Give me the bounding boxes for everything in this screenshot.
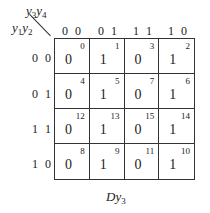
kmap-cell: 015 — [125, 109, 160, 144]
cell-value: 0 — [135, 87, 142, 103]
cell-minterm-index: 8 — [80, 146, 85, 156]
kmap-cell: 00 — [55, 39, 90, 74]
row-label-00: 0 0 — [32, 51, 53, 66]
cell-value: 0 — [65, 52, 72, 68]
column-label-11: 1 1 — [133, 24, 154, 39]
cell-value: 1 — [169, 87, 176, 103]
cell-minterm-index: 7 — [150, 76, 155, 86]
kmap-cell: 110 — [159, 144, 194, 179]
row-label-01: 0 1 — [32, 87, 53, 102]
kmap-cell: 012 — [55, 109, 90, 144]
cell-minterm-index: 1 — [115, 41, 120, 51]
cell-value: 1 — [169, 122, 176, 138]
cell-value: 1 — [100, 157, 107, 173]
cell-value: 0 — [135, 52, 142, 68]
cell-value: 1 — [100, 52, 107, 68]
kmap-cell: 03 — [125, 39, 160, 74]
column-label-10: 1 0 — [168, 24, 189, 39]
cell-minterm-index: 2 — [186, 41, 191, 51]
cell-minterm-index: 10 — [181, 146, 190, 156]
kmap-cell: 19 — [90, 144, 125, 179]
cell-value: 1 — [169, 52, 176, 68]
cell-value: 0 — [135, 122, 142, 138]
cell-minterm-index: 14 — [181, 111, 190, 121]
kmap-cell: 113 — [90, 109, 125, 144]
cell-value: 1 — [100, 122, 107, 138]
cell-value: 0 — [135, 157, 142, 173]
cell-value: 0 — [65, 157, 72, 173]
kmap-cell: 11 — [90, 39, 125, 74]
cell-minterm-index: 12 — [76, 111, 85, 121]
kmap-cell: 16 — [159, 74, 194, 109]
kmap-cell: 12 — [159, 39, 194, 74]
kmap-cell: 07 — [125, 74, 160, 109]
map-caption: Dy3 — [106, 189, 126, 206]
cell-value: 0 — [65, 87, 72, 103]
cell-minterm-index: 11 — [146, 146, 155, 156]
row-label-11: 1 1 — [32, 122, 53, 137]
cell-minterm-index: 6 — [186, 76, 191, 86]
column-label-01: 0 1 — [98, 24, 119, 39]
kmap-cell: 114 — [159, 109, 194, 144]
cell-minterm-index: 3 — [150, 41, 155, 51]
cell-minterm-index: 9 — [115, 146, 120, 156]
cell-minterm-index: 4 — [80, 76, 85, 86]
cell-value: 1 — [100, 87, 107, 103]
kmap-cell: 08 — [55, 144, 90, 179]
cell-minterm-index: 5 — [115, 76, 120, 86]
row-label-10: 1 0 — [32, 157, 53, 172]
row-variables-label: y1y2 — [12, 20, 33, 37]
column-label-00: 0 0 — [62, 24, 83, 39]
cell-minterm-index: 13 — [111, 111, 120, 121]
column-variables-label: y3y4 — [26, 3, 47, 20]
cell-value: 0 — [65, 122, 72, 138]
cell-minterm-index: 0 — [80, 41, 85, 51]
karnaugh-map-grid: 00110312041507160121130151140819011110 — [54, 38, 195, 180]
kmap-cell: 011 — [125, 144, 160, 179]
kmap-cell: 04 — [55, 74, 90, 109]
kmap-cell: 15 — [90, 74, 125, 109]
cell-value: 1 — [169, 157, 176, 173]
cell-minterm-index: 15 — [145, 111, 154, 121]
